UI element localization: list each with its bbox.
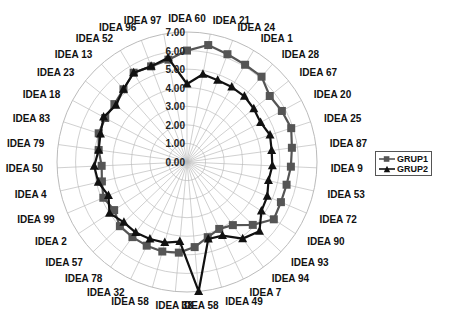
svg-text:4.00: 4.00 [166, 83, 186, 94]
svg-text:IDEA 87: IDEA 87 [330, 138, 368, 149]
svg-text:IDEA 32: IDEA 32 [87, 287, 125, 298]
svg-text:IDEA 97: IDEA 97 [124, 15, 162, 26]
svg-text:IDEA 72: IDEA 72 [319, 214, 357, 225]
svg-text:6.00: 6.00 [166, 46, 186, 57]
svg-text:0.00: 0.00 [166, 157, 186, 168]
svg-text:2.00: 2.00 [166, 120, 186, 131]
svg-text:IDEA 4: IDEA 4 [15, 189, 47, 200]
svg-text:IDEA 23: IDEA 23 [37, 67, 75, 78]
svg-text:IDEA 90: IDEA 90 [307, 236, 345, 247]
svg-text:IDEA 52: IDEA 52 [76, 33, 114, 44]
svg-text:IDEA 78: IDEA 78 [65, 273, 103, 284]
svg-text:1.00: 1.00 [166, 138, 186, 149]
svg-text:IDEA 49: IDEA 49 [225, 296, 263, 307]
svg-text:5.00: 5.00 [166, 64, 186, 75]
svg-text:IDEA 18: IDEA 18 [23, 89, 61, 100]
legend-label: GRUP2 [397, 164, 428, 174]
svg-text:IDEA 83: IDEA 83 [13, 113, 51, 124]
svg-text:IDEA 53: IDEA 53 [327, 189, 365, 200]
svg-text:3.00: 3.00 [166, 101, 186, 112]
legend: GRUP1 GRUP2 [375, 151, 432, 176]
svg-text:IDEA 57: IDEA 57 [45, 257, 83, 268]
square-marker-icon [379, 154, 395, 164]
triangle-marker-icon [379, 164, 395, 174]
svg-text:IDEA 28: IDEA 28 [282, 49, 320, 60]
svg-text:IDEA 67: IDEA 67 [300, 67, 338, 78]
svg-text:IDEA 2: IDEA 2 [35, 236, 67, 247]
svg-text:IDEA 38: IDEA 38 [155, 300, 193, 311]
svg-text:IDEA 60: IDEA 60 [168, 13, 206, 24]
legend-item-grup1: GRUP1 [379, 154, 428, 164]
svg-text:IDEA 24: IDEA 24 [238, 22, 276, 33]
svg-text:IDEA 1: IDEA 1 [261, 33, 293, 44]
svg-text:IDEA 13: IDEA 13 [55, 49, 93, 60]
svg-text:IDEA 94: IDEA 94 [272, 273, 310, 284]
svg-text:7.00: 7.00 [166, 27, 186, 38]
svg-text:IDEA 25: IDEA 25 [324, 113, 362, 124]
svg-text:IDEA 79: IDEA 79 [7, 138, 45, 149]
legend-label: GRUP1 [397, 154, 428, 164]
legend-item-grup2: GRUP2 [379, 164, 428, 174]
svg-text:IDEA 93: IDEA 93 [291, 257, 329, 268]
svg-text:IDEA 20: IDEA 20 [314, 89, 352, 100]
svg-text:IDEA 99: IDEA 99 [17, 214, 55, 225]
svg-text:IDEA 50: IDEA 50 [6, 163, 44, 174]
svg-text:IDEA 9: IDEA 9 [331, 163, 363, 174]
